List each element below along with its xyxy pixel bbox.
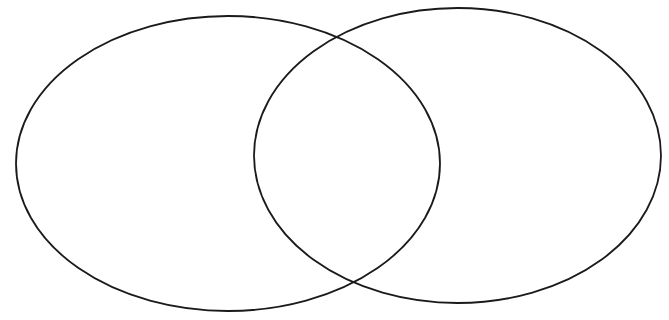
left-set-ellipse bbox=[16, 16, 440, 311]
venn-diagram bbox=[0, 0, 669, 320]
right-set-ellipse bbox=[254, 8, 661, 303]
